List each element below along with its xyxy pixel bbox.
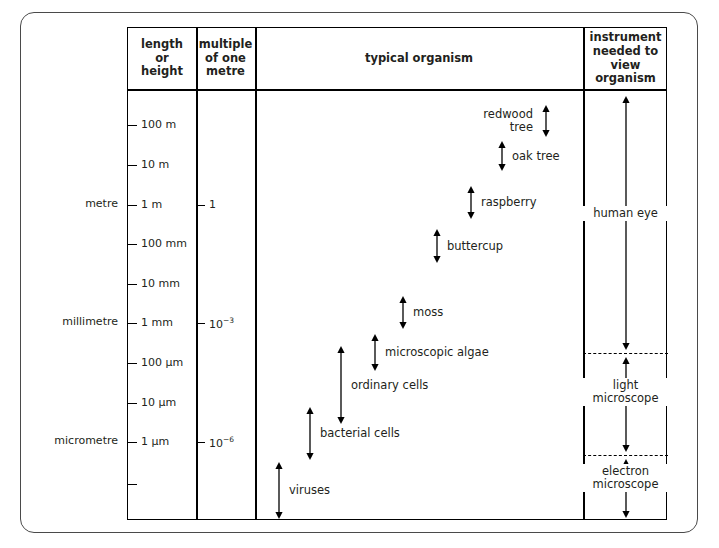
header-line: instrument: [590, 31, 662, 45]
label-line: tree: [483, 121, 533, 134]
organism-label-viruses: viruses: [289, 484, 330, 497]
instrument-divider: [583, 353, 668, 354]
length-tick-label: 10 mm: [141, 277, 180, 290]
instrument-label-electron-microscope: electronmicroscope: [583, 464, 668, 492]
column-header-multiple-of-one-metre: multiple of one metre: [196, 28, 255, 89]
length-tick: [128, 205, 137, 206]
label-line: microscope: [583, 478, 668, 491]
multiple-tick: [196, 442, 205, 443]
organism-range-arrow: [304, 407, 316, 460]
column-rule-2: [255, 28, 257, 519]
length-tick: [128, 363, 137, 364]
column-rule-3: [583, 28, 585, 519]
instrument-label-light-microscope: lightmicroscope: [583, 378, 668, 406]
length-tick: [128, 244, 137, 245]
length-tick: [128, 484, 137, 485]
length-tick-label: 10 µm: [141, 396, 176, 409]
organism-range-arrow: [465, 186, 477, 219]
header-line: of one: [199, 52, 253, 66]
header-line: typical organism: [365, 52, 473, 66]
instrument-divider: [583, 455, 668, 456]
header-line: needed to: [590, 45, 662, 59]
organism-label-microscopic-algae: microscopic algae: [385, 346, 489, 359]
instrument-label-human-eye: human eye: [583, 206, 668, 221]
scale-table: length or height multiple of one metre t…: [127, 27, 667, 520]
header-line: view: [590, 59, 662, 73]
unit-name-micrometre: micrometre: [54, 434, 118, 447]
length-tick: [128, 403, 137, 404]
unit-name-millimetre: millimetre: [62, 315, 118, 328]
length-tick: [128, 284, 137, 285]
length-tick-label: 10 m: [141, 158, 169, 171]
organism-label-redwood-tree: redwoodtree: [483, 108, 533, 134]
organism-label-moss: moss: [413, 306, 443, 319]
header-line: length: [141, 38, 183, 52]
unit-name-metre: metre: [85, 197, 118, 210]
length-tick-label: 1 µm: [141, 435, 169, 448]
length-tick: [128, 165, 137, 166]
length-tick: [128, 323, 137, 324]
label-line: raspberry: [481, 196, 537, 209]
organism-label-oak-tree: oak tree: [512, 150, 560, 163]
label-line: moss: [413, 306, 443, 319]
label-line: ordinary cells: [351, 379, 428, 392]
label-line: buttercup: [447, 240, 503, 253]
column-header-length-or-height: length or height: [128, 28, 196, 89]
organism-label-buttercup: buttercup: [447, 240, 503, 253]
label-line: bacterial cells: [320, 427, 400, 440]
length-tick: [128, 125, 137, 126]
length-tick-label: 100 mm: [141, 237, 187, 250]
organism-range-arrow: [335, 346, 347, 424]
label-line: viruses: [289, 484, 330, 497]
organism-label-bacterial-cells: bacterial cells: [320, 427, 400, 440]
header-line: multiple: [199, 38, 253, 52]
organism-label-ordinary-cells: ordinary cells: [351, 379, 428, 392]
multiple-tick: [196, 205, 205, 206]
organism-label-raspberry: raspberry: [481, 196, 537, 209]
header-line: metre: [199, 65, 253, 79]
organism-range-arrow: [397, 296, 409, 329]
organism-range-arrow: [540, 105, 552, 137]
header-line: or: [141, 52, 183, 66]
length-tick: [128, 442, 137, 443]
header-bottom-rule: [128, 89, 666, 91]
column-rule-1: [196, 28, 198, 519]
multiple-tick-label: 10−6: [209, 435, 234, 450]
organism-range-arrow: [273, 462, 285, 519]
organism-range-arrow: [431, 229, 443, 263]
length-tick-label: 100 m: [141, 118, 176, 131]
label-line: microscopic algae: [385, 346, 489, 359]
instrument-range-arrow: [620, 96, 632, 350]
header-line: organism: [590, 72, 662, 86]
label-line: microscope: [583, 392, 668, 405]
header-line: height: [141, 65, 183, 79]
label-line: oak tree: [512, 150, 560, 163]
organism-range-arrow: [369, 334, 381, 371]
column-header-typical-organism: typical organism: [255, 28, 583, 89]
multiple-tick-label: 10−3: [209, 316, 234, 331]
column-header-instrument-needed: instrument needed to view organism: [583, 28, 668, 89]
multiple-tick: [196, 323, 205, 324]
organism-range-arrow: [496, 141, 508, 171]
label-line: human eye: [583, 207, 668, 220]
multiple-tick-label: 1: [209, 198, 216, 211]
length-tick-label: 1 mm: [141, 316, 173, 329]
length-tick-label: 1 m: [141, 198, 162, 211]
length-tick-label: 100 µm: [141, 356, 183, 369]
